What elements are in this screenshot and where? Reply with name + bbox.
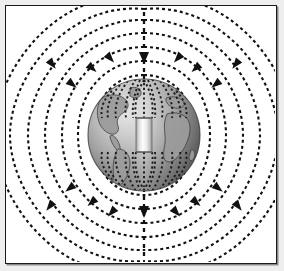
arrow-right-lower-b [212, 182, 226, 195]
axis-arrow-south [139, 206, 149, 218]
arrow-left-upper-a [86, 62, 100, 75]
arrow-right-upper-d [171, 52, 184, 66]
arrow-right-lower-c [232, 200, 245, 214]
arrow-left-lower-b [63, 182, 77, 195]
magnetic-field-diagram [6, 6, 275, 262]
arrow-left-lower-c [43, 200, 56, 214]
arrow-left-upper-d [104, 52, 117, 66]
axis-arrow-north [139, 52, 149, 64]
figure-frame: Earth's magnetic field as a dipole bar m… [5, 5, 277, 264]
arrow-right-upper-a [189, 62, 203, 75]
bar-magnet [136, 118, 152, 152]
figure-root: Earth's magnetic field as a dipole bar m… [0, 0, 284, 271]
